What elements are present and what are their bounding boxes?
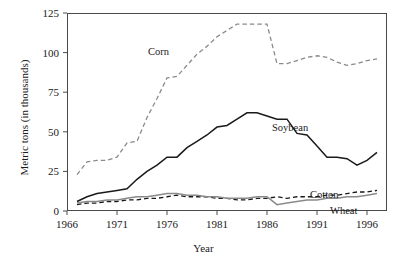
series-line-corn <box>77 24 377 174</box>
x-tick-1986: 1986 <box>244 219 290 230</box>
series-label-soybean: Soybean <box>272 122 308 133</box>
x-tick-1966: 1966 <box>44 219 90 230</box>
x-axis-ticks <box>67 211 367 215</box>
x-tick-1976: 1976 <box>144 219 190 230</box>
series-label-cotton: Cotton <box>310 189 339 200</box>
x-axis-title: Year <box>0 243 407 254</box>
x-tick-1996: 1996 <box>344 219 390 230</box>
x-tick-1981: 1981 <box>194 219 240 230</box>
y-tick-125: 125 <box>13 8 59 19</box>
data-series-group <box>77 24 377 205</box>
x-tick-1991: 1991 <box>294 219 340 230</box>
series-label-wheat: Wheat <box>330 205 357 216</box>
y-axis-ticks <box>63 13 67 211</box>
y-axis-title: Metric tons (in thousands) <box>19 38 30 198</box>
x-tick-1971: 1971 <box>94 219 140 230</box>
line-chart: 0255075100125 19661971197619811986199119… <box>0 0 407 267</box>
series-label-corn: Corn <box>148 46 169 57</box>
y-tick-0: 0 <box>13 206 59 217</box>
